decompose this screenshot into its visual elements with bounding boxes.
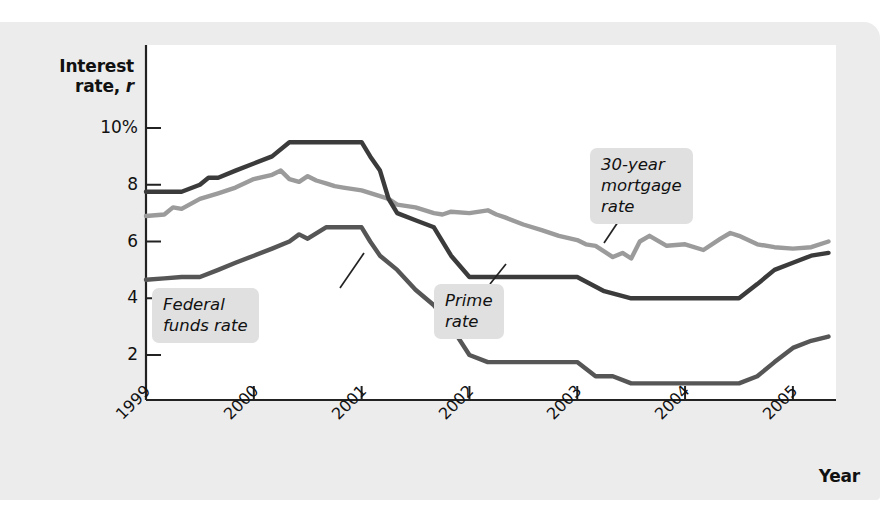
callout-federal-funds-rate: Federal funds rate	[152, 288, 259, 343]
y-axis-title: Interestrate, r	[24, 56, 134, 96]
callout-prime-rate: Prime rate	[434, 284, 504, 339]
chart-canvas	[0, 0, 894, 514]
plot-background	[146, 45, 836, 400]
y-tick-label: 10%	[68, 117, 138, 137]
y-axis-title-symbol: r	[126, 76, 134, 96]
y-axis-title-line1: Interest	[59, 56, 134, 76]
y-tick-label: 2	[68, 344, 138, 364]
y-tick-label: 4	[68, 287, 138, 307]
callout-mortgage-rate: 30-year mortgage rate	[590, 148, 693, 224]
y-axis-title-line2: rate,	[75, 76, 126, 96]
y-tick-label: 8	[68, 174, 138, 194]
x-axis-title: Year	[760, 466, 860, 486]
y-tick-label: 6	[68, 231, 138, 251]
